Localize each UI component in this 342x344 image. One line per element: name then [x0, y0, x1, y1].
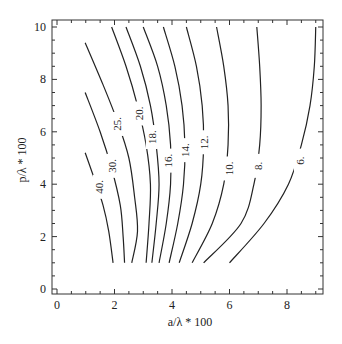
contour-label-16: 16.	[162, 153, 174, 167]
y-tick-label: 4	[40, 177, 46, 191]
contour-line-25	[85, 43, 137, 263]
y-tick-label: 10	[34, 20, 46, 34]
contour-label-10: 10.	[223, 161, 235, 175]
y-tick-label: 8	[40, 72, 46, 86]
contour-line-8	[204, 27, 262, 263]
contour-labels: 40.30.25.20.18.16.14.12.10.8.6.	[93, 101, 306, 198]
x-tick-label: 4	[169, 298, 175, 312]
y-axis-title: p/λ * 100	[15, 137, 29, 182]
y-tick-label: 2	[40, 230, 46, 244]
contour-label-6: 6.	[294, 156, 306, 165]
contour-line-6	[230, 27, 316, 263]
y-tick-label: 6	[40, 125, 46, 139]
contour-label-12: 12.	[198, 135, 210, 149]
contour-label-20: 20.	[133, 106, 145, 120]
x-tick-label: 8	[284, 298, 290, 312]
contour-label-30: 30.	[106, 159, 118, 173]
contour-label-25: 25.	[111, 117, 123, 131]
contour-label-8: 8.	[252, 161, 264, 170]
contour-label-14: 14.	[179, 143, 191, 157]
contour-line-20	[112, 27, 151, 263]
contour-chart: 02468 0246810 40.30.25.20.18.16.14.12.10…	[0, 0, 342, 344]
x-tick-label: 2	[112, 298, 118, 312]
x-tick-label: 6	[227, 298, 233, 312]
y-tick-label: 0	[40, 282, 46, 296]
x-axis-title: a/λ * 100	[168, 315, 212, 329]
y-axis-ticks: 0246810	[34, 20, 323, 296]
contour-label-18: 18.	[146, 130, 158, 144]
x-tick-label: 0	[54, 298, 60, 312]
contour-label-40: 40.	[93, 180, 105, 194]
